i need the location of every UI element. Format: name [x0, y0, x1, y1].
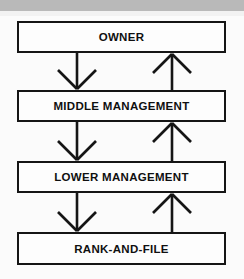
arrow-lower-to-middle-up-icon: [153, 123, 191, 161]
arrow-middle-to-lower-down-icon: [58, 122, 96, 160]
node-rank-and-file[interactable]: RANK-AND-FILE: [17, 232, 226, 265]
node-lower-management-label: LOWER MANAGEMENT: [54, 171, 188, 183]
arrow-owner-to-middle-down-icon: [58, 53, 96, 89]
org-flow-diagram: OWNER MIDDLE MANAGEMENT LOWER MANAGEMENT…: [0, 0, 244, 279]
node-lower-management[interactable]: LOWER MANAGEMENT: [17, 161, 226, 193]
node-rank-and-file-label: RANK-AND-FILE: [74, 243, 169, 255]
diagram-page: OWNER MIDDLE MANAGEMENT LOWER MANAGEMENT…: [0, 0, 244, 279]
arrow-rank-to-lower-up-icon: [153, 194, 191, 232]
node-middle-management-label: MIDDLE MANAGEMENT: [53, 100, 189, 112]
arrow-middle-to-owner-up-icon: [153, 54, 191, 90]
node-owner[interactable]: OWNER: [17, 21, 226, 53]
arrow-lower-to-rank-down-icon: [58, 193, 96, 231]
node-owner-label: OWNER: [99, 31, 145, 43]
node-middle-management[interactable]: MIDDLE MANAGEMENT: [17, 90, 226, 122]
